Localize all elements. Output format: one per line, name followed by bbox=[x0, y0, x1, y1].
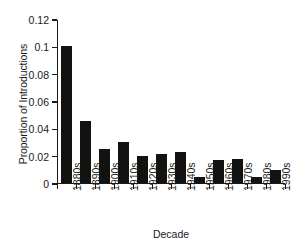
x-tick-label: 1880s bbox=[71, 162, 83, 191]
x-tick-label: 1990s bbox=[280, 162, 292, 191]
y-tick: 0.06 bbox=[52, 101, 57, 102]
plot-area: 00.020.040.060.080.10.12 1880s1890s1900s… bbox=[57, 20, 285, 184]
x-tick-label: 1930s bbox=[166, 162, 178, 191]
y-tick-label: 0.06 bbox=[29, 96, 49, 108]
y-tick: 0.08 bbox=[52, 74, 57, 75]
x-tick bbox=[57, 184, 58, 189]
y-tick-label: 0.08 bbox=[29, 69, 49, 81]
x-tick-label: 1920s bbox=[147, 162, 159, 191]
y-tick-label: 0.04 bbox=[29, 123, 49, 135]
x-tick-label: 1950s bbox=[204, 162, 216, 191]
y-tick-label: 0.1 bbox=[34, 41, 49, 53]
y-tick: 0.02 bbox=[52, 156, 57, 157]
x-tick-label: 1960s bbox=[223, 162, 235, 191]
x-tick-label: 1900s bbox=[109, 162, 121, 191]
y-tick-label: 0.12 bbox=[29, 14, 49, 26]
x-tick-label: 1980s bbox=[261, 162, 273, 191]
y-axis-title: Proportion of Introductions bbox=[17, 19, 29, 189]
x-axis-title: Decade bbox=[57, 228, 285, 240]
y-tick: 0.1 bbox=[52, 47, 57, 48]
x-tick-label: 1940s bbox=[185, 162, 197, 191]
x-tick-label: 1970s bbox=[242, 162, 254, 191]
y-tick: 0.04 bbox=[52, 129, 57, 130]
bar-chart-figure: Proportion of Introductions 00.020.040.0… bbox=[0, 0, 295, 249]
x-tick-label: 1890s bbox=[90, 162, 102, 191]
x-tick-label: 1910s bbox=[128, 162, 140, 191]
y-tick-label: 0 bbox=[43, 178, 49, 190]
y-tick: 0.12 bbox=[52, 19, 57, 20]
y-tick-label: 0.02 bbox=[29, 151, 49, 163]
y-axis-spine bbox=[57, 20, 58, 184]
